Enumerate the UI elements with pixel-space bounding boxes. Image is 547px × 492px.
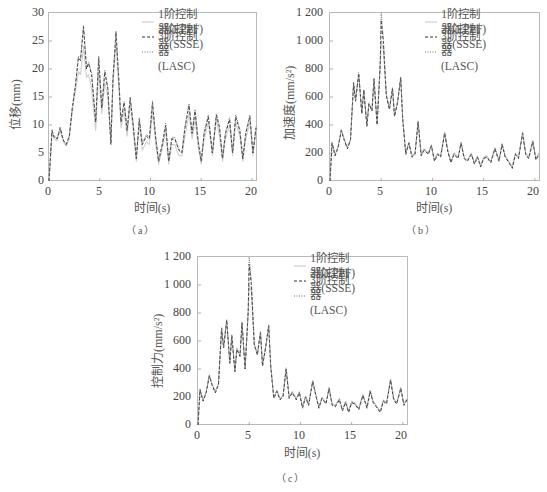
x-tick: 20 [389,429,413,441]
panel-caption: （b） [406,222,437,237]
y-tick: 30 [4,6,44,18]
x-tick: 0 [36,185,60,197]
solid-line-icon [142,19,154,25]
dotted-line-icon [294,293,306,299]
dashed-line-icon [294,278,306,284]
y-tick: 5 [4,146,44,158]
y-tick: 600 [151,334,191,346]
x-tick: 20 [521,185,545,197]
y-tick: 15 [4,90,44,102]
x-tick: 5 [368,185,392,197]
legend-item-lasc: 3阶控制器(LASC) [294,288,357,303]
y-tick: 200 [151,390,191,402]
solid-line-icon [425,19,437,25]
x-tick: 10 [137,185,161,197]
y-tick: 1 000 [283,34,323,46]
y-tick: 1 200 [151,250,191,262]
legend-label: 3阶控制器(LASC) [158,29,205,74]
legend: 1阶控制器(EPPF) 3阶控制器(SSSE) 3阶控制器(LASC) [425,14,488,59]
series-line [49,44,256,181]
y-tick: 200 [283,146,323,158]
x-axis-label: 时间(s) [112,198,192,216]
x-tick: 15 [188,185,212,197]
x-tick: 10 [287,429,311,441]
x-tick: 20 [239,185,263,197]
dashed-line-icon [142,34,154,40]
x-tick: 5 [87,185,111,197]
y-tick: 400 [151,362,191,374]
legend: 1阶控制器(EPPF) 3阶控制器(SSSE) 3阶控制器(LASC) [294,258,357,303]
panel-caption: （a） [126,222,156,237]
solid-line-icon [294,263,306,269]
y-tick: 25 [4,34,44,46]
y-axis-label: 控制力(mm/s²) [148,314,166,388]
x-tick: 0 [317,185,341,197]
y-tick: 10 [4,118,44,130]
x-tick: 5 [236,429,260,441]
dashed-line-icon [425,34,437,40]
legend-label: 3阶控制器(LASC) [441,29,488,74]
y-tick: 20 [4,62,44,74]
y-tick: 600 [283,90,323,102]
x-axis-label: 时间(s) [262,443,342,461]
y-tick: 1 000 [151,278,191,290]
y-tick: 400 [283,118,323,130]
dotted-line-icon [425,49,437,55]
y-tick: 1 200 [283,6,323,18]
x-tick: 10 [419,185,443,197]
y-tick: 800 [151,306,191,318]
legend-item-lasc: 3阶控制器(LASC) [142,44,205,59]
x-tick: 15 [470,185,494,197]
legend-label: 3阶控制器(LASC) [310,273,357,318]
x-axis-label: 时间(s) [394,198,474,216]
x-tick: 0 [185,429,209,441]
legend-item-lasc: 3阶控制器(LASC) [425,44,488,59]
x-tick: 15 [338,429,362,441]
legend: 1阶控制器(EPPF) 3阶控制器(SSSE) 3阶控制器(LASC) [142,14,205,59]
panel-caption: （c） [276,470,306,485]
dotted-line-icon [142,49,154,55]
y-tick: 800 [283,62,323,74]
